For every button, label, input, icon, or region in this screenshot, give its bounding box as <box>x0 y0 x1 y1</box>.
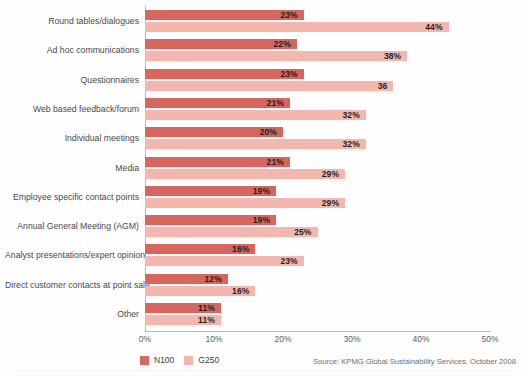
bar-g250: 23% <box>145 256 304 266</box>
bar-group: 19%29% <box>145 186 490 212</box>
bar-g250: 36 <box>145 81 393 91</box>
category-label: Individual meetings <box>5 133 145 143</box>
bar-value-label: 19% <box>253 215 270 225</box>
bar-n100: 21% <box>145 98 290 108</box>
bar-value-label: 16% <box>232 286 249 296</box>
bar-n100: 21% <box>145 157 290 167</box>
category-label: Other <box>5 309 145 319</box>
bar-value-label: 32% <box>342 139 359 149</box>
bar-g250: 32% <box>145 139 366 149</box>
category-label: Round tables/dialogues <box>5 16 145 26</box>
bar-g250: 44% <box>145 22 449 32</box>
category-label: Ad hoc communications <box>5 45 145 55</box>
bar-n100: 22% <box>145 39 297 49</box>
bar-value-label: 21% <box>267 157 284 167</box>
bar-g250: 16% <box>145 286 255 296</box>
bar-n100: 11% <box>145 303 221 313</box>
chart-legend: N100G250 <box>140 355 219 365</box>
bar-n100: 19% <box>145 186 276 196</box>
bar-g250: 32% <box>145 110 366 120</box>
bar-row: 21% <box>145 157 290 167</box>
bar-row: 20% <box>145 127 283 137</box>
bar-g250: 38% <box>145 51 407 61</box>
bar-row: 12% <box>145 274 228 284</box>
bar-row: 32% <box>145 139 366 149</box>
bar-row: 11% <box>145 303 221 313</box>
bar-value-label: 22% <box>273 39 290 49</box>
bar-value-label: 25% <box>294 227 311 237</box>
bar-row: 21% <box>145 98 290 108</box>
bar-group: 20%32% <box>145 127 490 153</box>
category-label: Analyst presentations/expert opinion <box>5 250 145 260</box>
bar-row: 32% <box>145 110 366 120</box>
bar-value-label: 12% <box>204 274 221 284</box>
plot-area: 23%44%22%38%23%3621%32%20%32%21%29%19%29… <box>145 6 490 331</box>
bar-row: 19% <box>145 215 276 225</box>
bar-value-label: 44% <box>425 22 442 32</box>
bar-group: 23%44% <box>145 10 490 36</box>
bar-value-label: 38% <box>384 51 401 61</box>
bar-group: 12%16% <box>145 274 490 300</box>
bar-row: 25% <box>145 227 318 237</box>
bar-value-label: 32% <box>342 110 359 120</box>
bar-value-label: 20% <box>260 127 277 137</box>
bar-value-label: 23% <box>280 256 297 266</box>
x-tick-label: 30% <box>343 334 360 344</box>
legend-item[interactable]: G250 <box>184 355 219 365</box>
bar-value-label: 23% <box>280 69 297 79</box>
bottom-divider <box>14 370 514 371</box>
legend-swatch-icon <box>184 356 193 365</box>
bar-value-label: 29% <box>322 198 339 208</box>
bar-row: 38% <box>145 51 407 61</box>
legend-label: N100 <box>154 355 174 365</box>
bar-value-label: 16% <box>232 244 249 254</box>
bar-group: 11%11% <box>145 303 490 329</box>
bar-n100: 12% <box>145 274 228 284</box>
bar-g250: 29% <box>145 198 345 208</box>
legend-item[interactable]: N100 <box>140 355 174 365</box>
legend-label: G250 <box>198 355 219 365</box>
bar-row: 11% <box>145 315 221 325</box>
bar-row: 29% <box>145 198 345 208</box>
x-tick-label: 40% <box>412 334 429 344</box>
legend-swatch-icon <box>140 356 149 365</box>
bar-group: 22%38% <box>145 39 490 65</box>
bar-group: 21%32% <box>145 98 490 124</box>
x-tick-label: 20% <box>274 334 291 344</box>
bar-n100: 16% <box>145 244 255 254</box>
bar-g250: 25% <box>145 227 318 237</box>
bar-value-label: 29% <box>322 169 339 179</box>
category-label: Questionnaires <box>5 75 145 85</box>
category-label: Web based feedback/forum <box>5 104 145 114</box>
bar-value-label: 11% <box>198 303 215 313</box>
category-label: Media <box>5 163 145 173</box>
bar-n100: 23% <box>145 69 304 79</box>
category-axis-labels: Round tables/dialoguesAd hoc communicati… <box>0 6 145 331</box>
bar-value-label: 11% <box>198 315 215 325</box>
bar-group: 21%29% <box>145 157 490 183</box>
bar-g250: 29% <box>145 169 345 179</box>
bar-group: 23%36 <box>145 69 490 95</box>
bar-row: 23% <box>145 256 304 266</box>
bar-row: 16% <box>145 286 255 296</box>
bar-value-label: 19% <box>253 186 270 196</box>
bar-n100: 19% <box>145 215 276 225</box>
x-tick-label: 0% <box>139 334 151 344</box>
bar-group: 19%25% <box>145 215 490 241</box>
x-tick-label: 10% <box>205 334 222 344</box>
x-tick-label: 50% <box>481 334 498 344</box>
bar-row: 44% <box>145 22 449 32</box>
bar-g250: 11% <box>145 315 221 325</box>
bar-row: 29% <box>145 169 345 179</box>
bar-row: 22% <box>145 39 297 49</box>
category-label: Employee specific contact points <box>5 192 145 202</box>
bar-row: 23% <box>145 69 304 79</box>
bar-value-label: 36 <box>378 81 388 91</box>
category-label: Annual General Meeting (AGM) <box>5 221 145 231</box>
bar-n100: 20% <box>145 127 283 137</box>
source-note: Source: KPMG Global Sustainability Servi… <box>313 357 516 366</box>
bar-row: 36 <box>145 81 393 91</box>
bar-row: 19% <box>145 186 276 196</box>
category-label: Direct customer contacts at point sale <box>5 280 145 290</box>
x-axis-tick-labels: 0%10%20%30%40%50% <box>145 334 491 350</box>
